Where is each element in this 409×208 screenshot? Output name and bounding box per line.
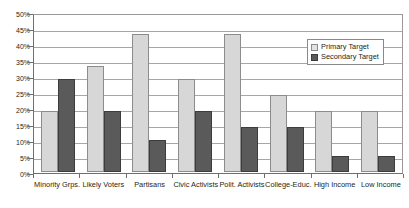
x-axis-category-label: Civic Activists: [173, 180, 219, 194]
bar-primary: [315, 111, 332, 172]
bar-secondary: [332, 156, 349, 172]
x-axis-ticks: [33, 174, 403, 179]
bar-group: [218, 15, 264, 172]
legend-item: Primary Target: [311, 43, 379, 51]
bar-secondary: [104, 111, 121, 172]
y-axis-tick-label: 5%: [0, 155, 30, 162]
x-axis-category-label: Likely Voters: [80, 180, 126, 194]
chart-legend: Primary TargetSecondary Target: [307, 39, 384, 65]
x-axis-category-label: Low Income: [358, 180, 404, 194]
bar-group: [81, 15, 127, 172]
x-axis-category-label: High Income: [312, 180, 358, 194]
bar-primary: [87, 66, 104, 172]
y-axis-tick-label: 25%: [0, 91, 30, 98]
legend-item: Secondary Target: [311, 53, 379, 61]
y-axis-tick-label: 40%: [0, 43, 30, 50]
x-axis-tick-mark: [311, 174, 312, 178]
y-axis-tick-label: 10%: [0, 139, 30, 146]
x-axis-tick-mark: [126, 174, 127, 178]
x-axis-category-label: Polit. Activists: [219, 180, 265, 194]
bar-secondary: [149, 140, 166, 172]
y-axis-tick-label: 35%: [0, 59, 30, 66]
y-axis-tick-label: 50%: [0, 11, 30, 18]
bar-primary: [224, 34, 241, 172]
bar-primary: [178, 79, 195, 172]
bar-group: [35, 15, 81, 172]
x-axis-category-label: College-Educ.: [265, 180, 311, 194]
bar-primary: [270, 95, 287, 172]
legend-swatch-icon: [311, 44, 318, 51]
bar-chart: 50%45%40%35%30%25%20%15%10%5%0% Minority…: [0, 0, 409, 208]
x-axis-tick-mark: [264, 174, 265, 178]
legend-swatch-icon: [311, 54, 318, 61]
bar-group: [172, 15, 218, 172]
bar-group: [127, 15, 173, 172]
bar-secondary: [195, 111, 212, 172]
bar-primary: [41, 111, 58, 172]
x-axis-tick-mark: [357, 174, 358, 178]
bar-secondary: [287, 127, 304, 172]
x-axis-tick-mark: [172, 174, 173, 178]
bar-secondary: [378, 156, 395, 172]
y-axis-tick-label: 45%: [0, 27, 30, 34]
bar-secondary: [58, 79, 75, 172]
x-axis-labels: Minority Grps.Likely VotersPartisansCivi…: [34, 180, 404, 194]
y-axis-tick-label: 15%: [0, 123, 30, 130]
y-axis-labels: 50%45%40%35%30%25%20%15%10%5%0%: [0, 14, 30, 174]
x-axis-category-label: Partisans: [126, 180, 172, 194]
bar-primary: [132, 34, 149, 172]
bar-primary: [361, 111, 378, 172]
x-axis-tick-mark: [79, 174, 80, 178]
y-axis-tick-label: 20%: [0, 107, 30, 114]
legend-item-label: Primary Target: [321, 43, 369, 51]
y-axis-tick-label: 30%: [0, 75, 30, 82]
y-axis-tick-label: 0%: [0, 171, 30, 178]
x-axis-tick-mark: [403, 174, 404, 178]
x-axis-tick-mark: [218, 174, 219, 178]
bar-group: [264, 15, 310, 172]
x-axis-tick-mark: [33, 174, 34, 178]
x-axis-category-label: Minority Grps.: [34, 180, 80, 194]
legend-item-label: Secondary Target: [321, 53, 379, 61]
plot-area: [33, 14, 403, 174]
bar-secondary: [241, 127, 258, 172]
